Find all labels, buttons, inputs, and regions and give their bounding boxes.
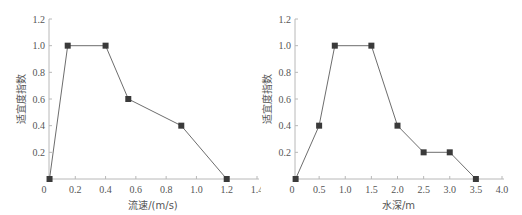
x-tick-label: 1.0 — [339, 184, 352, 195]
data-point-marker — [65, 43, 71, 49]
x-tick-label: 0.8 — [160, 184, 173, 195]
y-tick-label: 0.2 — [279, 147, 292, 158]
y-tick-label: 0.2 — [33, 147, 46, 158]
x-tick-label: 0.6 — [130, 184, 143, 195]
x-tick-label: 3.0 — [444, 184, 457, 195]
data-point-marker — [224, 176, 230, 182]
x-axis-title: 流速/(m/s) — [128, 199, 178, 211]
y-tick-label: 1.2 — [279, 14, 292, 25]
x-tick-label: 1.2 — [220, 184, 233, 195]
y-tick-label: 0.8 — [279, 67, 292, 78]
y-tick-label: 1.2 — [33, 14, 46, 25]
y-tick-label: 1.0 — [33, 40, 46, 51]
series-line — [296, 46, 476, 179]
data-point-marker — [447, 149, 453, 155]
x-tick-label: 1.5 — [365, 184, 378, 195]
y-axis-title: 适宜度指数 — [15, 74, 27, 124]
data-point-marker — [473, 176, 479, 182]
depth-suitability-chart: 0.20.40.60.81.01.200.51.01.52.02.53.03.5… — [261, 0, 522, 215]
data-point-marker — [178, 123, 184, 129]
data-point-marker — [421, 149, 427, 155]
x-tick-label: 2.0 — [391, 184, 404, 195]
x-tick-label: 4.0 — [496, 184, 509, 195]
x-tick-label: 0.2 — [69, 184, 82, 195]
y-tick-label: 0.8 — [33, 67, 46, 78]
velocity-suitability-chart: 0.20.40.60.81.01.200.20.40.60.81.01.21.4… — [0, 0, 261, 215]
y-tick-label: 0.6 — [279, 94, 292, 105]
data-point-marker — [368, 43, 374, 49]
series-line — [50, 46, 227, 179]
x-tick-label: 0 — [42, 184, 47, 195]
data-point-marker — [332, 43, 338, 49]
data-point-marker — [47, 176, 53, 182]
y-tick-label: 0.4 — [279, 120, 292, 131]
depth-chart-svg: 0.20.40.60.81.01.200.51.01.52.02.53.03.5… — [261, 0, 522, 215]
velocity-chart-svg: 0.20.40.60.81.01.200.20.40.60.81.01.21.4… — [0, 0, 261, 215]
x-tick-label: 2.5 — [417, 184, 430, 195]
y-tick-label: 0.4 — [33, 120, 46, 131]
x-axis-title: 水深/m — [382, 200, 415, 211]
x-tick-label: 0.5 — [313, 184, 326, 195]
data-point-marker — [103, 43, 109, 49]
data-point-marker — [293, 176, 299, 182]
x-tick-label: 0.4 — [99, 184, 112, 195]
x-tick-label: 1.0 — [190, 184, 203, 195]
data-point-marker — [316, 123, 322, 129]
x-tick-label: 1.4 — [251, 184, 261, 195]
data-point-marker — [125, 96, 131, 102]
y-tick-label: 0.6 — [33, 94, 46, 105]
x-tick-label: 0 — [290, 184, 295, 195]
x-tick-label: 3.5 — [470, 184, 483, 195]
y-axis-title: 适宜度指数 — [261, 74, 273, 124]
data-point-marker — [395, 123, 401, 129]
y-tick-label: 1.0 — [279, 40, 292, 51]
